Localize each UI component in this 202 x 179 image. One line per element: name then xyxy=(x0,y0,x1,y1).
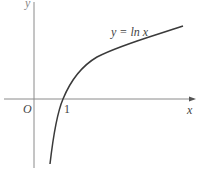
x-axis-label: x xyxy=(187,104,192,116)
tick-label-one: 1 xyxy=(64,103,70,115)
x-axis-arrow-icon xyxy=(189,97,196,102)
y-axis-label: y xyxy=(25,0,30,9)
plot-canvas xyxy=(0,0,202,179)
curve-label: y = ln x xyxy=(111,26,148,38)
origin-label: O xyxy=(23,103,32,115)
ln-curve xyxy=(50,26,183,164)
